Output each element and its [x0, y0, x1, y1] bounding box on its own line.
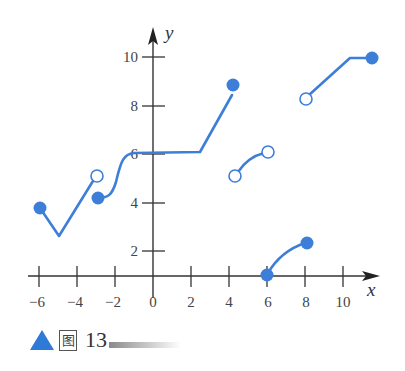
closed-point	[34, 202, 47, 215]
closed-point	[92, 192, 105, 205]
y-axis-label: y	[163, 22, 174, 43]
segment-2	[98, 95, 232, 198]
x-tick-label: −4	[67, 294, 83, 310]
figure-glyph: 图	[59, 330, 77, 351]
open-point	[262, 146, 274, 158]
x-tick-label: 4	[225, 294, 233, 310]
closed-point	[301, 237, 314, 250]
figure-caption: 图 13	[30, 326, 181, 354]
segment-5	[309, 58, 370, 95]
caption-gradient-bar	[109, 342, 181, 348]
open-point	[300, 93, 312, 105]
x-tick-label: 0	[149, 294, 157, 310]
triangle-icon	[30, 330, 54, 350]
x-tick-label: 8	[302, 294, 310, 310]
closed-point	[261, 269, 274, 282]
y-tick-label: 8	[131, 98, 139, 114]
function-curves	[40, 58, 370, 273]
x-axis-label: x	[366, 279, 376, 300]
x-tick-label: 10	[336, 294, 351, 310]
y-tick-label: 10	[123, 49, 138, 65]
y-tick-label: 2	[131, 243, 139, 259]
open-point	[229, 170, 241, 182]
x-tick-label: −6	[29, 294, 45, 310]
segment-4	[268, 243, 305, 273]
x-tick-labels: −6 −4 −2 0 2 4 6 8 10	[29, 294, 350, 310]
endpoints	[34, 52, 379, 282]
closed-point	[227, 79, 240, 92]
closed-point	[366, 52, 379, 65]
x-tick-label: 6	[264, 294, 272, 310]
segment-1	[40, 181, 93, 236]
axes	[28, 36, 372, 298]
function-graph: −6 −4 −2 0 2 4 6 8 10 2 4 6 8 10 y x	[0, 0, 405, 371]
open-point	[91, 170, 103, 182]
figure-number: 13	[85, 327, 107, 353]
segment-3	[238, 153, 264, 172]
y-tick-label: 4	[131, 195, 139, 211]
x-tick-label: 2	[187, 294, 195, 310]
x-tick-label: −2	[105, 294, 121, 310]
